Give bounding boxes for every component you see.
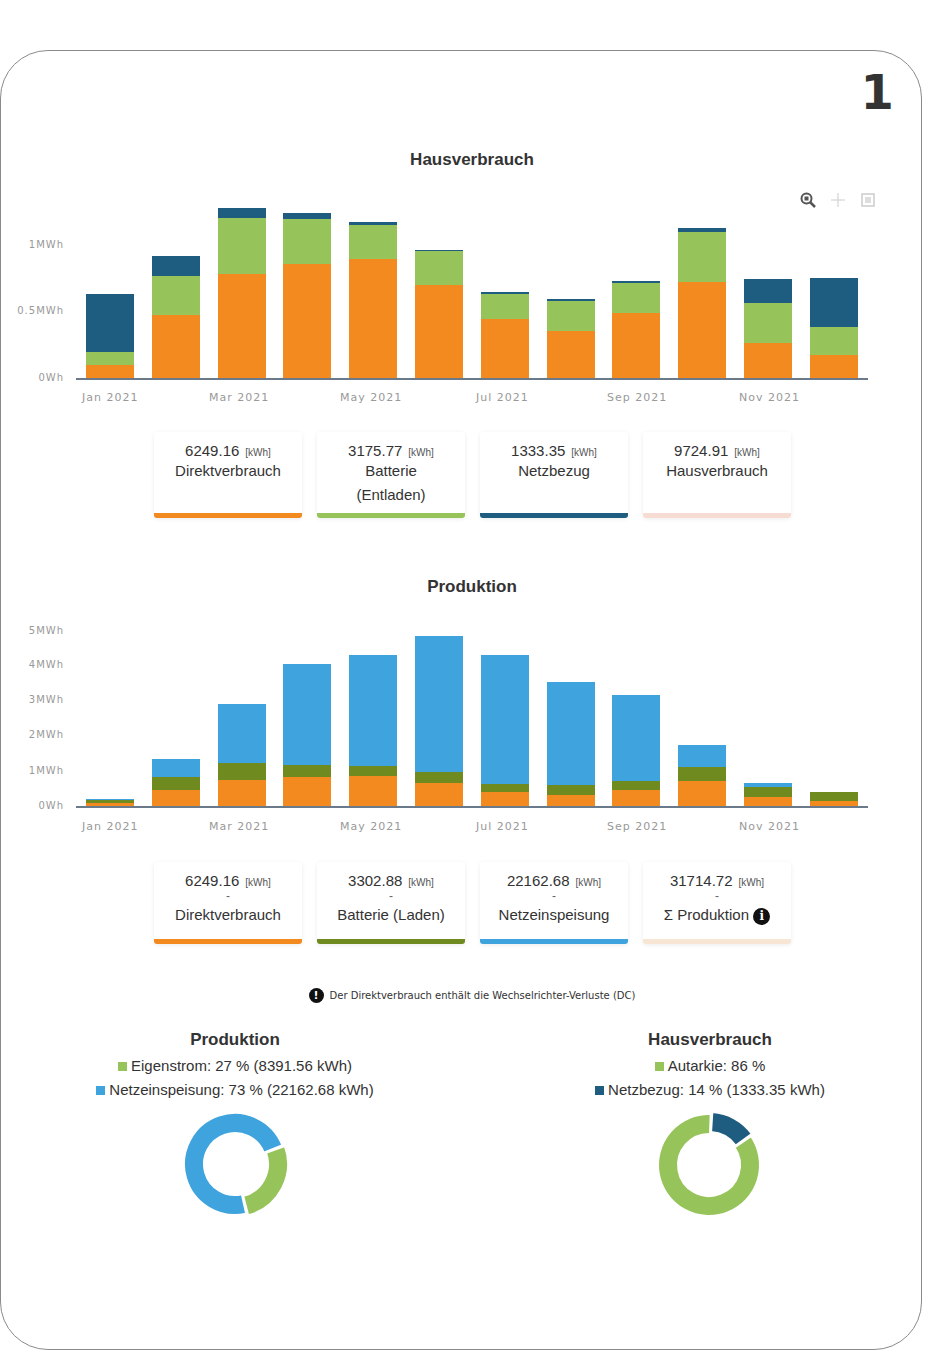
legend-item-eigenstrom[interactable]: Eigenstrom: 27 % (8391.56 kWh) bbox=[80, 1054, 390, 1078]
bar-segment bbox=[810, 327, 858, 355]
summary-card-summe-produktion: 31714.72[kWh] - Σ Produktion i bbox=[643, 862, 791, 944]
legend-swatch bbox=[118, 1062, 127, 1071]
card-value: 3302.88 bbox=[348, 872, 402, 889]
produktion-summary-cards: 6249.16[kWh] - Direktverbrauch 3302.88[k… bbox=[154, 862, 791, 944]
bar-segment bbox=[481, 784, 529, 792]
y-tick: 0Wh bbox=[0, 800, 64, 811]
bar-segment bbox=[283, 777, 331, 806]
bar-jan-2021[interactable] bbox=[86, 294, 134, 378]
y-tick: 0.5MWh bbox=[0, 305, 64, 316]
hausverbrauch-summary-cards: 6249.16[kWh] Direktverbrauch 3175.77[kWh… bbox=[154, 432, 791, 518]
zoom-icon[interactable] bbox=[800, 192, 816, 208]
card-unit: [kWh] bbox=[408, 447, 434, 458]
bar-segment bbox=[218, 780, 266, 806]
bar-jan-2021[interactable] bbox=[86, 799, 134, 806]
bar-segment bbox=[86, 352, 134, 365]
bar-aug-2021[interactable] bbox=[547, 682, 595, 806]
bar-segment bbox=[218, 208, 266, 219]
bar-segment bbox=[218, 274, 266, 378]
bar-segment bbox=[744, 303, 792, 343]
bar-dec-2021[interactable] bbox=[810, 278, 858, 378]
bar-mar-2021[interactable] bbox=[218, 208, 266, 378]
x-axis bbox=[76, 378, 868, 380]
bar-segment bbox=[283, 264, 331, 378]
color-strip bbox=[154, 513, 302, 518]
hausverbrauch-donut-chart bbox=[652, 1112, 766, 1218]
summary-card-direktverbrauch: 6249.16[kWh] - Direktverbrauch bbox=[154, 862, 302, 944]
bar-feb-2021[interactable] bbox=[152, 256, 200, 378]
bar-mar-2021[interactable] bbox=[218, 704, 266, 806]
bar-segment bbox=[283, 664, 331, 765]
y-tick: 2MWh bbox=[0, 729, 64, 740]
bar-segment bbox=[152, 256, 200, 276]
bar-segment bbox=[152, 759, 200, 777]
bar-jun-2021[interactable] bbox=[415, 636, 463, 806]
card-dash: - bbox=[317, 889, 465, 903]
bar-segment bbox=[612, 313, 660, 378]
bar-feb-2021[interactable] bbox=[152, 759, 200, 806]
x-tick: Sep 2021 bbox=[607, 820, 667, 833]
bar-segment bbox=[612, 790, 660, 806]
bar-segment bbox=[547, 301, 595, 332]
legend-item-autarkie[interactable]: Autarkie: 86 % bbox=[570, 1054, 850, 1078]
bar-aug-2021[interactable] bbox=[547, 299, 595, 378]
reset-zoom-icon[interactable] bbox=[860, 192, 876, 208]
bar-oct-2021[interactable] bbox=[678, 228, 726, 378]
bar-segment bbox=[481, 655, 529, 784]
color-strip bbox=[154, 939, 302, 944]
bar-nov-2021[interactable] bbox=[744, 279, 792, 378]
bar-segment bbox=[678, 767, 726, 781]
x-tick: Mar 2021 bbox=[209, 391, 269, 404]
bar-segment bbox=[678, 781, 726, 806]
bar-segment bbox=[481, 792, 529, 806]
bar-may-2021[interactable] bbox=[349, 655, 397, 806]
bar-segment bbox=[218, 218, 266, 274]
donut-slice-eigenstrom[interactable] bbox=[243, 1146, 288, 1215]
bar-sep-2021[interactable] bbox=[612, 281, 660, 378]
bar-segment bbox=[547, 785, 595, 795]
card-label: Netzbezug bbox=[480, 459, 628, 483]
bar-segment bbox=[152, 315, 200, 378]
pan-icon[interactable] bbox=[830, 192, 846, 208]
card-value: 3175.77 bbox=[348, 442, 402, 459]
bar-segment bbox=[152, 276, 200, 316]
bar-dec-2021[interactable] bbox=[810, 792, 858, 806]
legend-item-netzeinspeisung[interactable]: Netzeinspeisung: 73 % (22162.68 kWh) bbox=[80, 1078, 390, 1102]
donut-title: Produktion bbox=[80, 1030, 390, 1050]
legend-text: Netzeinspeisung: 73 % (22162.68 kWh) bbox=[109, 1081, 373, 1098]
card-unit: [kWh] bbox=[245, 877, 271, 888]
hausverbrauch-donut-block: Hausverbrauch Autarkie: 86 % Netzbezug: … bbox=[570, 1030, 850, 1102]
bar-sep-2021[interactable] bbox=[612, 695, 660, 806]
bar-jun-2021[interactable] bbox=[415, 250, 463, 378]
card-unit: [kWh] bbox=[245, 447, 271, 458]
summary-card-hausverbrauch: 9724.91[kWh] Hausverbrauch bbox=[643, 432, 791, 518]
card-value: 6249.16 bbox=[185, 872, 239, 889]
summary-card-direktverbrauch: 6249.16[kWh] Direktverbrauch bbox=[154, 432, 302, 518]
x-tick: Jul 2021 bbox=[476, 391, 529, 404]
card-value: 22162.68 bbox=[507, 872, 570, 889]
bar-segment bbox=[283, 219, 331, 264]
bar-segment bbox=[152, 777, 200, 790]
page-number: 1 bbox=[861, 68, 894, 116]
bar-apr-2021[interactable] bbox=[283, 664, 331, 806]
card-value: 1333.35 bbox=[511, 442, 565, 459]
legend-item-netzbezug[interactable]: Netzbezug: 14 % (1333.35 kWh) bbox=[570, 1078, 850, 1102]
bar-may-2021[interactable] bbox=[349, 222, 397, 378]
footnote-text: Der Direktverbrauch enthält die Wechselr… bbox=[330, 990, 636, 1001]
exclamation-icon: ! bbox=[309, 988, 324, 1003]
bar-oct-2021[interactable] bbox=[678, 745, 726, 806]
bar-segment bbox=[678, 745, 726, 767]
bar-segment bbox=[218, 763, 266, 780]
bar-nov-2021[interactable] bbox=[744, 783, 792, 806]
y-tick: 1MWh bbox=[0, 765, 64, 776]
color-strip bbox=[643, 513, 791, 518]
bar-segment bbox=[678, 282, 726, 378]
y-tick: 0Wh bbox=[0, 372, 64, 383]
bar-jul-2021[interactable] bbox=[481, 292, 529, 378]
card-label: Direktverbrauch bbox=[154, 903, 302, 927]
bar-jul-2021[interactable] bbox=[481, 655, 529, 806]
info-icon[interactable]: i bbox=[753, 908, 770, 925]
card-label: Direktverbrauch bbox=[154, 459, 302, 483]
bar-apr-2021[interactable] bbox=[283, 213, 331, 378]
card-dash: - bbox=[154, 889, 302, 903]
